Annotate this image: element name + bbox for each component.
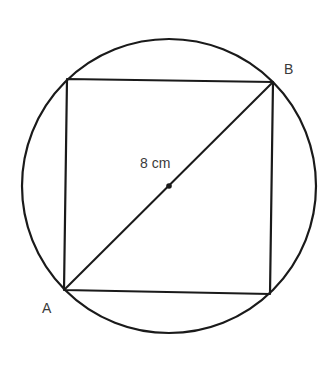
point-b-label: B — [284, 61, 293, 77]
inscribed-square-diagram: 8 cm B A — [0, 0, 332, 365]
diagonal-length-label: 8 cm — [140, 155, 170, 171]
center-point — [166, 183, 172, 189]
point-a-label: A — [42, 300, 52, 316]
diagram-canvas: 8 cm B A — [0, 0, 332, 365]
